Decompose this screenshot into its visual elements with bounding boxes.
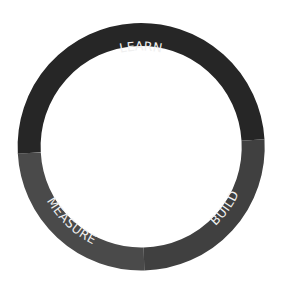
label-learn: LEARN bbox=[118, 38, 164, 55]
build-measure-learn-ring: LEARN MEASURE BUILD bbox=[0, 0, 282, 289]
